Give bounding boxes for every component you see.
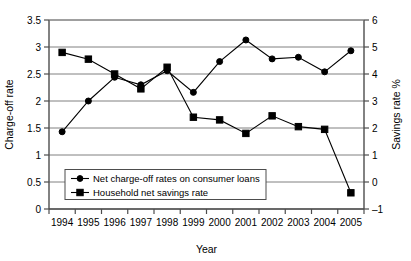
legend-label-2: Household net savings rate	[93, 187, 208, 198]
circle-marker-icon	[77, 176, 83, 182]
square-marker-icon-household-net-savings-rate-1996	[111, 71, 117, 77]
xtick-label-2003: 2003	[287, 217, 310, 228]
xtick-label-1998: 1998	[156, 217, 179, 228]
xtick-label-2000: 2000	[209, 217, 232, 228]
ytick-label-left-2.5: 2.5	[27, 69, 41, 80]
ytick-label-left-0: 0	[35, 204, 41, 215]
square-marker-icon-household-net-savings-rate-2001	[243, 130, 249, 136]
ytick-label-left-0.5: 0.5	[27, 177, 41, 188]
square-marker-icon-household-net-savings-rate-2000	[216, 117, 222, 123]
xtick-label-2005: 2005	[340, 217, 363, 228]
xtick-label-1996: 1996	[104, 217, 127, 228]
ytick-label-left-3: 3	[35, 42, 41, 53]
circle-marker-icon-net-charge-off-rates-on-consumer-loans-2005	[348, 48, 354, 54]
ytick-label-left-1.5: 1.5	[27, 123, 41, 134]
circle-marker-icon-net-charge-off-rates-on-consumer-loans-1999	[190, 89, 196, 95]
xtick-label-1994: 1994	[51, 217, 74, 228]
circle-marker-icon-net-charge-off-rates-on-consumer-loans-2000	[217, 59, 223, 65]
ytick-label-right-3: 3	[372, 96, 378, 107]
xtick-label-1999: 1999	[182, 217, 205, 228]
ytick-label-right-6: 6	[372, 15, 378, 26]
square-marker-icon-household-net-savings-rate-1999	[190, 114, 196, 120]
circle-marker-icon-net-charge-off-rates-on-consumer-loans-2003	[295, 54, 301, 60]
xtick-label-2002: 2002	[261, 217, 284, 228]
circle-marker-icon-net-charge-off-rates-on-consumer-loans-2002	[269, 56, 275, 62]
xtick-label-1997: 1997	[130, 217, 153, 228]
circle-marker-icon-net-charge-off-rates-on-consumer-loans-1994	[59, 129, 65, 135]
square-marker-icon-household-net-savings-rate-2004	[321, 126, 327, 132]
y-axis-title-left: Charge-off rate	[3, 79, 15, 150]
square-marker-icon-household-net-savings-rate-1994	[59, 49, 65, 55]
square-marker-icon-household-net-savings-rate-1997	[138, 86, 144, 92]
circle-marker-icon-net-charge-off-rates-on-consumer-loans-2004	[322, 69, 328, 75]
square-marker-icon-household-net-savings-rate-2005	[348, 190, 354, 196]
xtick-label-2004: 2004	[314, 217, 337, 228]
square-marker-icon	[77, 189, 83, 195]
circle-marker-icon-net-charge-off-rates-on-consumer-loans-1995	[85, 98, 91, 104]
square-marker-icon-household-net-savings-rate-1998	[164, 64, 170, 70]
ytick-label-right-0: 0	[372, 177, 378, 188]
ytick-label-right--1: –1	[372, 204, 384, 215]
ytick-label-right-1: 1	[372, 150, 378, 161]
line-chart: 00.511.522.533.5–10123456199419951996199…	[0, 0, 411, 261]
ytick-label-left-2: 2	[35, 96, 41, 107]
ytick-label-left-3.5: 3.5	[27, 15, 41, 26]
ytick-label-left-1: 1	[35, 150, 41, 161]
legend-label-1: Net charge-off rates on consumer loans	[93, 173, 260, 184]
ytick-label-right-2: 2	[372, 123, 378, 134]
x-axis-title: Year	[196, 243, 218, 255]
square-marker-icon-household-net-savings-rate-1995	[85, 56, 91, 62]
ytick-label-right-5: 5	[372, 42, 378, 53]
xtick-label-2001: 2001	[235, 217, 258, 228]
xtick-label-1995: 1995	[77, 217, 100, 228]
square-marker-icon-household-net-savings-rate-2002	[269, 113, 275, 119]
square-marker-icon-household-net-savings-rate-2003	[295, 123, 301, 129]
ytick-label-right-4: 4	[372, 69, 378, 80]
chart-container: 00.511.522.533.5–10123456199419951996199…	[0, 0, 411, 261]
y-axis-title-right: Savings rate %	[390, 79, 402, 150]
circle-marker-icon-net-charge-off-rates-on-consumer-loans-2001	[243, 37, 249, 43]
